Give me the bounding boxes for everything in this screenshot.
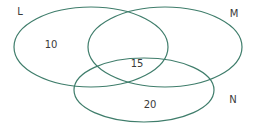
region-n-only-value: 20: [144, 99, 157, 110]
set-l-label: L: [17, 6, 23, 17]
set-m-label: M: [230, 8, 239, 19]
set-m-ellipse: [88, 7, 242, 87]
region-lmn-value: 15: [131, 58, 144, 69]
venn-diagram: L M N 10 15 20: [0, 0, 255, 126]
region-l-only-value: 10: [45, 39, 58, 50]
set-l-ellipse: [14, 7, 168, 87]
set-n-ellipse: [74, 58, 214, 122]
set-n-label: N: [229, 94, 236, 105]
